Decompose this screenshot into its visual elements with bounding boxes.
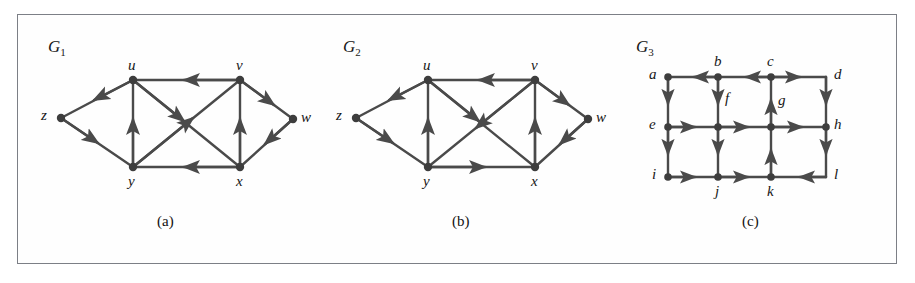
vertex-dot-k (767, 173, 775, 181)
edge-v-y-arrow (476, 80, 535, 128)
vertex-dot-z (57, 114, 65, 122)
graph-b-vertices (352, 76, 592, 171)
vertex-dot-x (531, 163, 539, 171)
vertex-dot-v (236, 76, 244, 84)
vertex-label-u-b: u (423, 58, 431, 73)
vertex-dot-y (129, 163, 137, 171)
edge-z-y-arrow (61, 118, 98, 143)
vertex-dot-e (664, 123, 672, 131)
edge-w-x-arrow (560, 119, 588, 144)
vertex-label-e: e (649, 117, 656, 132)
vertex-label-f: f (725, 91, 729, 106)
vertex-label-b: b (714, 54, 722, 69)
vertex-label-z-a: z (41, 108, 47, 123)
vertex-label-w-b: w (596, 110, 606, 125)
edge-z-y-arrow (356, 118, 393, 143)
panel-c: G3 a b c d e f g h i j k l (c) (608, 15, 895, 263)
vertex-label-u-a: u (128, 58, 136, 73)
vertex-dot-c (767, 73, 775, 81)
graph-title-a: G1 (48, 37, 66, 58)
edge-y-v-arrow (133, 118, 193, 167)
graph-title-b: G2 (343, 37, 361, 58)
vertex-dot-y (424, 163, 432, 171)
vertex-dot-u (129, 76, 137, 84)
vertex-label-k: k (767, 184, 774, 199)
vertex-label-j: j (715, 184, 719, 199)
edge-u-z-arrow (389, 80, 428, 100)
vertex-label-v-b: v (531, 58, 538, 73)
vertex-dot-w (584, 115, 592, 123)
vertex-dot-j (714, 173, 722, 181)
vertex-label-h: h (834, 117, 842, 132)
vertex-dot-x (236, 163, 244, 171)
caption-a: (a) (157, 213, 174, 230)
graph-a-vertices (57, 76, 297, 171)
vertex-label-d: d (834, 67, 842, 82)
vertex-dot-w (289, 115, 297, 123)
vertex-dot-v (531, 76, 539, 84)
vertex-dot-f (714, 123, 722, 131)
vertex-label-x-b: x (531, 174, 538, 189)
vertex-label-c: c (767, 54, 774, 69)
vertex-dot-h (822, 123, 830, 131)
vertex-label-g: g (778, 93, 786, 108)
edge-u-x-arrow (133, 80, 184, 121)
vertex-label-z-b: z (336, 108, 342, 123)
graph-title-c: G3 (636, 37, 654, 58)
caption-c: (c) (742, 213, 759, 230)
figure-frame: G1 z u v w y x (a) (17, 14, 897, 264)
caption-b: (b) (452, 213, 470, 230)
vertex-label-y-b: y (423, 174, 430, 189)
vertex-label-x-a: x (236, 174, 243, 189)
vertex-dot-z (352, 114, 360, 122)
vertex-label-a: a (649, 67, 657, 82)
edge-v-w-arrow (535, 80, 569, 105)
vertex-label-w-a: w (301, 110, 311, 125)
figure-canvas: G1 z u v w y x (a) (0, 0, 915, 283)
vertex-dot-g (767, 123, 775, 131)
vertex-dot-i (664, 173, 672, 181)
vertex-label-v-a: v (236, 58, 243, 73)
edge-u-z-arrow (94, 80, 133, 100)
vertex-dot-b (714, 73, 722, 81)
edge-v-w-arrow (240, 80, 274, 105)
edge-u-x-arrow (428, 80, 479, 121)
vertex-label-y-a: y (128, 174, 135, 189)
panel-a: G1 z u v w y x (a) (18, 15, 313, 263)
vertex-dot-u (424, 76, 432, 84)
vertex-dot-a (664, 73, 672, 81)
vertex-label-i: i (652, 167, 656, 182)
edge-w-x-arrow (265, 119, 293, 144)
panel-b: G2 z u v w y x (b) (313, 15, 608, 263)
vertex-label-l: l (834, 167, 838, 182)
